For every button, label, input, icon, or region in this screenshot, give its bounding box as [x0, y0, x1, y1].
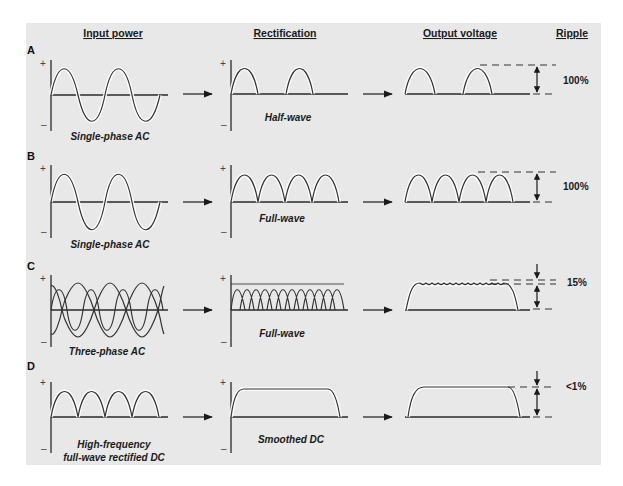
minus-sign: – — [41, 226, 47, 237]
header-rectification: Rectification — [253, 27, 316, 39]
rect-caption-c: Full-wave — [259, 328, 305, 339]
minus-sign: – — [221, 443, 227, 454]
plus-sign: + — [40, 273, 46, 284]
row-c: C + – Three-phase AC + – Full-wave 15% — [27, 260, 587, 357]
ripple-value-d: <1% — [566, 381, 586, 392]
plus-sign: + — [220, 163, 226, 174]
header-output-voltage: Output voltage — [423, 27, 497, 39]
plus-sign: + — [40, 377, 46, 388]
ripple-value-b: 100% — [563, 181, 589, 192]
input-caption-d-line2: full-wave rectified DC — [63, 452, 165, 463]
minus-sign: – — [41, 443, 47, 454]
rect-caption-b: Full-wave — [259, 213, 305, 224]
plus-sign: + — [40, 58, 46, 69]
row-label-d: D — [27, 360, 35, 372]
row-label-b: B — [27, 150, 35, 162]
row-b: B + – Single-phase AC + – Full-wave 100% — [27, 150, 589, 250]
plus-sign: + — [220, 273, 226, 284]
row-d: D + – High-frequency full-wave rectified… — [27, 360, 586, 463]
minus-sign: – — [221, 336, 227, 347]
input-caption-a: Single-phase AC — [70, 131, 150, 142]
plus-sign: + — [220, 58, 226, 69]
rectification-diagram: Input power Rectification Output voltage… — [0, 0, 623, 486]
input-caption-c: Three-phase AC — [69, 346, 146, 357]
row-label-a: A — [27, 44, 35, 56]
rect-caption-a: Half-wave — [265, 112, 312, 123]
input-caption-d-line1: High-frequency — [77, 439, 151, 450]
ripple-value-c: 15% — [567, 277, 587, 288]
ripple-value-a: 100% — [563, 75, 589, 86]
plus-sign: + — [220, 377, 226, 388]
header-input-power: Input power — [83, 27, 143, 39]
row-a: A + – Single-phase AC + – Half-wave 100% — [27, 44, 589, 142]
minus-sign: – — [221, 119, 227, 130]
minus-sign: – — [41, 336, 47, 347]
minus-sign: – — [41, 119, 47, 130]
row-label-c: C — [27, 260, 35, 272]
header-ripple: Ripple — [556, 27, 588, 39]
input-caption-b: Single-phase AC — [70, 239, 150, 250]
minus-sign: – — [221, 226, 227, 237]
rect-caption-d: Smoothed DC — [258, 434, 325, 445]
plus-sign: + — [40, 163, 46, 174]
